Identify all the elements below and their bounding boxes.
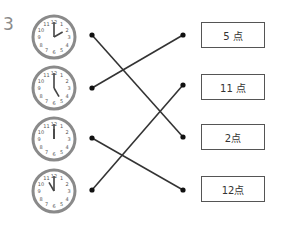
answer-box-2[interactable]: 11 点 [201, 74, 265, 100]
right-dot[interactable] [180, 187, 185, 192]
answer-label: 5 点 [223, 28, 243, 43]
match-line [92, 35, 183, 137]
match-line [92, 85, 183, 190]
left-dot[interactable] [89, 32, 94, 37]
right-dot[interactable] [180, 134, 185, 139]
answer-box-3[interactable]: 2点 [201, 124, 265, 150]
left-dot[interactable] [89, 85, 94, 90]
match-line [92, 138, 183, 190]
left-dot[interactable] [89, 187, 94, 192]
match-line [92, 35, 183, 88]
right-dot[interactable] [180, 32, 185, 37]
answer-box-1[interactable]: 5 点 [201, 22, 265, 48]
answer-label: 12点 [222, 182, 245, 197]
answer-box-4[interactable]: 12点 [201, 176, 265, 202]
right-dot[interactable] [180, 82, 185, 87]
answer-label: 2点 [225, 130, 241, 145]
left-dot[interactable] [89, 135, 94, 140]
answer-label: 11 点 [220, 80, 246, 95]
